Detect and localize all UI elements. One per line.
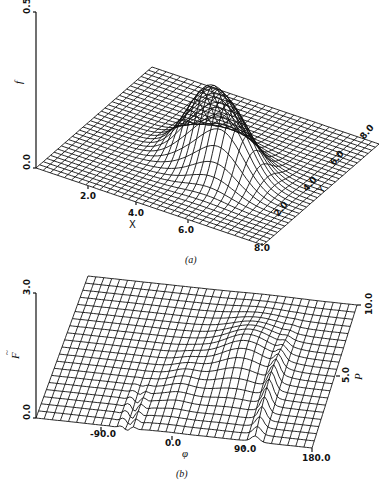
panel-a-x-tick-label: 4.0 (128, 208, 144, 218)
panel-b-y-tick-label: 10.0 (364, 293, 374, 315)
panel-a-x-tick-label: 2.0 (80, 191, 96, 201)
panel-a-x-tick-label: 6.0 (178, 225, 194, 235)
panel-b-z-axis-accent: ~ (2, 350, 12, 355)
panel-b-wireframe-mesh (36, 276, 357, 448)
panel-a-caption: (a) (185, 254, 197, 266)
panel-b-y-axis-label: P (352, 373, 364, 381)
figure: 0.5 0.0 f 2.0 4.0 6.0 8.0 X 2.0 4.0 6.0 … (0, 0, 383, 483)
panel-a-x-tick-label: 8.0 (254, 243, 270, 253)
panel-a-wireframe-mesh (36, 67, 379, 245)
panel-a-z-tick-top-label: 0.5 (22, 0, 32, 14)
panel-b-x-tick-label: -90.0 (90, 429, 116, 439)
panel-b-x-ticks: -90.0 0.0 90.0 180.0 (90, 427, 330, 463)
panel-b-caption: (b) (176, 468, 188, 480)
panel-a-x-axis-label: X (129, 219, 136, 230)
panel-a-y-tick-label: 8.0 (358, 123, 376, 142)
panel-a-surface-plot: 0.5 0.0 f 2.0 4.0 6.0 8.0 X 2.0 4.0 6.0 … (12, 0, 379, 266)
panel-a-y-axis-label: Y (314, 183, 328, 196)
panel-b-z-tick-top-label: 3.0 (22, 279, 32, 295)
panel-a-z-tick-bottom-label: 0.0 (22, 154, 32, 170)
panel-b-x-tick-label: 180.0 (302, 453, 330, 463)
panel-b-y-ticks: 5.0 10.0 (336, 293, 374, 383)
panel-b-y-tick-label: 5.0 (341, 367, 351, 383)
panel-b-z-tick-bottom-label: 0.0 (22, 404, 32, 420)
panel-b-surface-plot: 3.0 0.0 F ~ -90.0 0.0 90.0 180.0 φ 5.0 1… (2, 276, 374, 480)
panel-b-x-tick-label: 0.0 (165, 438, 181, 448)
panel-b-x-axis-label: φ (182, 447, 188, 459)
panel-b-x-tick-label: 90.0 (234, 444, 256, 454)
panel-a-z-axis-label: f (12, 79, 24, 84)
